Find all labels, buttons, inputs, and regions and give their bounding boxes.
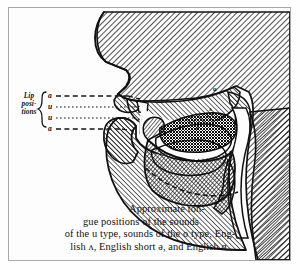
vowel-key-4: ɑ: [48, 124, 52, 133]
caption-line-2: gue positions of the sounds: [0, 216, 286, 229]
lip-positions-label: Lip posi- tions: [12, 92, 46, 117]
caption-line-4: lish ʌ, English short ə, and English ɑ.: [14, 241, 286, 254]
caption-line-1: Approximate ton-: [14, 203, 286, 216]
tongue-mark-u: u: [213, 85, 216, 92]
vowel-key-1: ɑ: [48, 91, 52, 100]
figure-caption: Approximate ton- gue positions of the so…: [14, 203, 286, 253]
tongue-mark-script-a: ɑ: [196, 124, 199, 131]
vowel-key-2: u: [48, 102, 52, 111]
lip-label-line-3: tions: [12, 108, 46, 116]
figure-plate: Lip posi- tions ɑ u u ɑ u ʌ ɑ Approximat…: [0, 0, 300, 270]
tongue-mark-wedge: ʌ: [209, 105, 212, 112]
vowel-key-3: u: [48, 113, 52, 122]
caption-line-3: of the u type, sounds of the o type, Eng…: [14, 228, 286, 241]
